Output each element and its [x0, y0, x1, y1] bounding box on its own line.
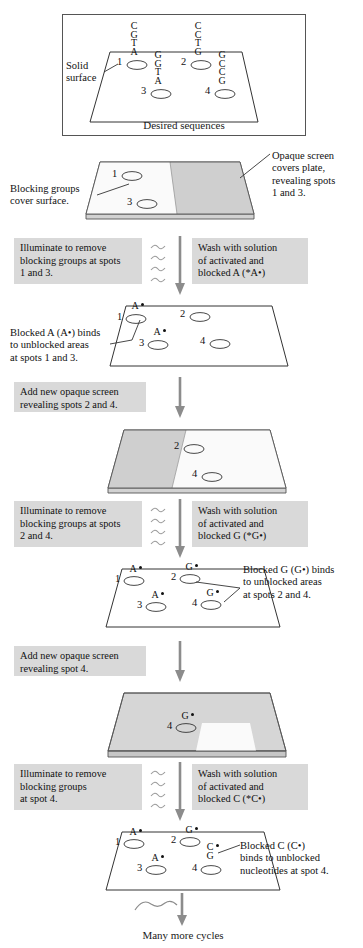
blocked-c-label: Blocked C (C•) binds to unblocked nucleo…	[240, 840, 360, 877]
panel5-spot-3-dot	[161, 592, 164, 595]
panel7-spot-3-base: A	[150, 854, 160, 863]
panel7-spot-2-ellipse	[178, 836, 202, 848]
panel5-spot-2-base: G	[184, 563, 194, 572]
panel7-spot-4-base: C G	[205, 843, 215, 860]
panel7-spot-3-dot	[161, 855, 164, 858]
panel7-spot-2-number: 2	[171, 834, 176, 845]
blocking-groups-label: Blocking groups cover surface.	[10, 183, 102, 208]
wash-box-step5: Wash with solution of activated and bloc…	[192, 764, 308, 810]
panel1-spot-3-ellipse	[149, 88, 173, 100]
panel2-spot-3-ellipse	[135, 198, 159, 210]
panel1-spot-3-sequence: G G T A	[152, 51, 164, 85]
light-waves-step1	[149, 240, 171, 286]
flow-arrow-step1	[173, 236, 187, 296]
illuminate-box-step3-line1: Illuminate to remove	[20, 505, 136, 518]
add-screen-box-step4: Add new opaque screen revealing spot 4.	[14, 646, 146, 676]
wash-box-step1-line2: of activated and	[198, 255, 302, 268]
light-waves-step3	[149, 503, 171, 549]
wash-box-step3: Wash with solution of activated and bloc…	[192, 501, 308, 547]
panel1-spot-1-sequence: C G T A	[128, 22, 140, 56]
illuminate-box-step1-line1: Illuminate to remove	[20, 242, 136, 255]
panel1-spot-4-sequence: G C C G	[216, 51, 228, 85]
blocked-a-label-line3: at spots 1 and 3.	[10, 352, 114, 364]
illuminate-box-step3-line3: 2 and 4.	[20, 530, 136, 543]
panel5-spot-1-ellipse	[122, 575, 146, 587]
panel1-spot-4-ellipse	[213, 88, 237, 100]
light-waves-step5	[149, 766, 171, 812]
panel5-spot-3-ellipse	[144, 601, 168, 613]
panel1-spot-2-sequence: C C T G	[192, 22, 204, 56]
panel3-spot-2-ellipse	[188, 311, 212, 323]
blocking-groups-label-line1: Blocking groups	[10, 183, 102, 195]
panel1-spot-4-number: 4	[205, 85, 210, 96]
panel2-spot-1-ellipse	[120, 170, 144, 182]
panel5-spot-2-dot	[195, 564, 198, 567]
blocked-g-label-line2: to unblocked areas	[243, 576, 359, 588]
panel7-spot-1-dot	[139, 829, 142, 832]
figure-root: Solid surface C G T A 1 C C T G 2 G G T …	[0, 0, 363, 948]
panel4-plate	[100, 420, 300, 502]
panel1-spot-2-number: 2	[181, 56, 186, 67]
panel7-spot-2-base: G	[184, 826, 194, 835]
flow-arrow-step3	[173, 499, 187, 559]
panel1-spot-1-ellipse	[125, 59, 149, 71]
wash-box-step5-line2: of activated and	[198, 781, 302, 794]
illuminate-box-step1-line3: 1 and 3.	[20, 267, 136, 280]
panel7-spot-3-ellipse	[144, 864, 168, 876]
blocked-g-label-line3: at spots 2 and 4.	[243, 589, 359, 601]
blocked-g-label-line1: Blocked G (G•) binds	[243, 564, 359, 576]
panel4-spot-4-number: 4	[192, 468, 197, 479]
wash-box-step3-line2: of activated and	[198, 518, 302, 531]
blocked-c-label-line2: binds to unblocked	[240, 852, 360, 864]
wash-box-step3-line3: blocked G (*G•)	[198, 530, 302, 543]
panel1-spot-3-number: 3	[141, 85, 146, 96]
panel5-spot-1-dot	[139, 566, 142, 569]
add-screen-box-step4-line1: Add new opaque screen	[20, 650, 140, 663]
panel6-spot-4-ellipse	[174, 722, 198, 734]
illuminate-box-step5-line2: blocking groups	[20, 781, 136, 794]
blocked-g-leader	[196, 576, 248, 606]
blocked-a-label: Blocked A (A•) binds to unblocked areas …	[10, 327, 114, 364]
wash-box-step1-line3: blocked A (*A•)	[198, 267, 302, 280]
panel6-spot-4-dot	[191, 713, 194, 716]
panel7-spot-4-number: 4	[192, 862, 197, 873]
illuminate-box-step3: Illuminate to remove blocking groups at …	[14, 501, 142, 547]
panel1-spot-1-number: 1	[117, 56, 122, 67]
panel3-spot-3-base: A	[152, 328, 162, 337]
illuminate-box-step3-line2: blocking groups at spots	[20, 518, 136, 531]
panel2-spot-1-number: 1	[112, 168, 117, 179]
panel1-spot-2-ellipse	[189, 59, 213, 71]
panel5-spot-1-number: 1	[115, 573, 120, 584]
blocking-groups-leader	[97, 182, 133, 198]
illuminate-box-step1: Illuminate to remove blocking groups at …	[14, 238, 142, 284]
desired-sequences-caption: Desired sequences	[62, 119, 306, 132]
wash-box-step1-line1: Wash with solution	[198, 242, 302, 255]
panel7-spot-1-ellipse	[122, 838, 146, 850]
blocked-a-label-line1: Blocked A (A•) binds	[10, 327, 114, 339]
panel3-spot-1-dot	[141, 303, 144, 306]
add-screen-box-step2-line1: Add new opaque screen	[20, 386, 140, 399]
add-screen-box-step2: Add new opaque screen revealing spots 2 …	[14, 382, 146, 412]
flow-arrow-final	[175, 893, 189, 927]
panel5-spot-3-number: 3	[137, 599, 142, 610]
flow-arrow-step2	[173, 377, 187, 419]
illuminate-box-step5-line1: Illuminate to remove	[20, 768, 136, 781]
panel3-spot-3-dot	[163, 329, 166, 332]
wash-box-step1: Wash with solution of activated and bloc…	[192, 238, 308, 284]
panel5-spot-3-base: A	[150, 591, 160, 600]
panel7-spot-1-base: A	[128, 828, 138, 837]
add-screen-box-step2-line2: revealing spots 2 and 4.	[20, 399, 140, 412]
panel5-spot-1-base: A	[128, 565, 138, 574]
blocked-c-label-line3: nucleotides at spot 4.	[240, 865, 360, 877]
panel7-spot-3-number: 3	[137, 862, 142, 873]
panel7-spot-4-ellipse	[199, 864, 223, 876]
add-screen-box-step4-line2: revealing spot 4.	[20, 663, 140, 676]
panel7-spot-1-number: 1	[115, 836, 120, 847]
opaque-screen-leader	[240, 152, 274, 180]
panel3-spot-1-base: A	[130, 302, 140, 311]
blocked-c-leader	[218, 843, 244, 855]
blocked-c-label-line1: Blocked C (C•)	[240, 840, 360, 852]
panel3-spot-2-number: 2	[180, 308, 185, 319]
panel4-spot-2-ellipse	[182, 443, 206, 455]
panel4-spot-2-number: 2	[174, 440, 179, 451]
